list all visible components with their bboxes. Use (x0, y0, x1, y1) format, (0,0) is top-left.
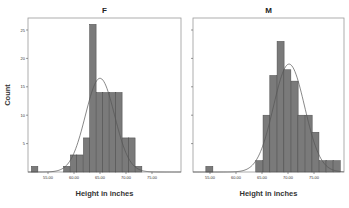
panel-title: F (102, 6, 107, 15)
histogram-bar (77, 155, 84, 172)
x-tick-label: 55.00 (43, 175, 54, 180)
x-tick-label: 65.00 (95, 175, 106, 180)
histogram-bar (96, 92, 103, 172)
y-tick-label: 25 (21, 28, 26, 33)
x-tick-label: 70.00 (121, 175, 132, 180)
histogram-bar (90, 24, 97, 172)
histogram-bar (129, 138, 136, 172)
histogram-bar (284, 70, 291, 172)
panel-f: F51015202555.0060.0065.0070.0075.00Heigh… (3, 6, 181, 198)
x-tick-label: 60.00 (69, 175, 80, 180)
panel-m: M55.0060.0065.0070.0075.00Height in inch… (191, 6, 344, 198)
x-tick-label: 70.00 (283, 175, 294, 180)
histogram-bar (277, 41, 284, 172)
y-tick-label: 10 (21, 113, 26, 118)
y-tick-label: 15 (21, 84, 26, 89)
x-tick-label: 60.00 (231, 175, 242, 180)
x-tick-label: 55.00 (205, 175, 216, 180)
histogram-bar (109, 92, 116, 172)
panel-title: M (265, 6, 272, 15)
histogram-bar (298, 115, 305, 172)
x-axis-title: Height in inches (76, 189, 134, 198)
histogram-bar (206, 166, 213, 172)
histogram-bar (256, 161, 263, 172)
histogram-bar (31, 166, 38, 172)
x-tick-label: 75.00 (309, 175, 320, 180)
histogram-bar (83, 138, 90, 172)
y-axis-title: Count (3, 84, 12, 106)
histogram-bar (103, 92, 110, 172)
histogram-bar (319, 161, 326, 172)
histogram-bar (291, 81, 298, 172)
histogram-bar (70, 155, 77, 172)
x-tick-label: 75.00 (147, 175, 158, 180)
histogram-chart: F51015202555.0060.0065.0070.0075.00Heigh… (0, 0, 349, 208)
histogram-bar (270, 75, 277, 172)
x-tick-label: 65.00 (257, 175, 268, 180)
y-tick-label: 20 (21, 56, 26, 61)
y-tick-label: 5 (23, 141, 26, 146)
x-axis-title: Height in inches (240, 189, 298, 198)
histogram-bar (122, 138, 129, 172)
